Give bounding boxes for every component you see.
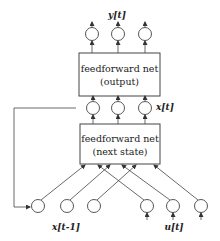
output-node bbox=[86, 28, 99, 41]
prev-state-node bbox=[88, 200, 101, 213]
output-net-line1: feedforward net bbox=[81, 63, 159, 74]
state-node bbox=[139, 102, 152, 115]
input-node bbox=[167, 200, 180, 213]
output-nodes bbox=[86, 22, 152, 53]
state-node bbox=[87, 102, 100, 115]
output-net-box: feedforward net (output) bbox=[79, 53, 160, 96]
prev-state-label: x[t-1] bbox=[51, 222, 80, 232]
state-node bbox=[112, 102, 125, 115]
input-connections bbox=[41, 165, 198, 200]
output-node bbox=[112, 28, 125, 41]
output-net-line2: (output) bbox=[100, 76, 139, 87]
rnn-diagram: y[t] feedforward net (output) x[t] feedf… bbox=[0, 0, 220, 241]
input-label: u[t] bbox=[164, 222, 183, 232]
state-label: x[t] bbox=[155, 102, 174, 112]
output-label: y[t] bbox=[107, 10, 126, 20]
output-node bbox=[139, 28, 152, 41]
prev-state-node bbox=[61, 200, 74, 213]
prev-state-nodes bbox=[32, 200, 101, 213]
feedback-arrow bbox=[14, 108, 76, 207]
input-node bbox=[141, 200, 154, 213]
next-state-net-line1: feedforward net bbox=[81, 133, 159, 144]
input-node bbox=[195, 200, 208, 213]
input-nodes bbox=[141, 200, 208, 221]
prev-state-node bbox=[32, 200, 45, 213]
next-state-net-box: feedforward net (next state) bbox=[80, 124, 160, 164]
next-state-net-line2: (next state) bbox=[92, 146, 147, 157]
state-nodes bbox=[87, 96, 152, 124]
